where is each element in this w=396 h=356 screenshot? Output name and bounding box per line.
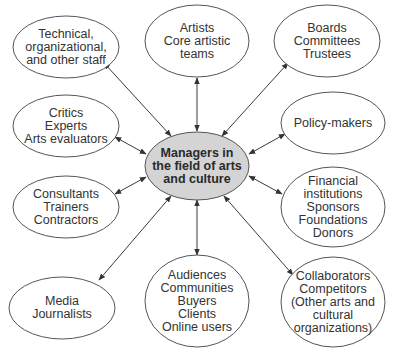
double-arrow-policy bbox=[249, 134, 285, 154]
label-line: and other staff bbox=[25, 54, 106, 67]
label-line: teams bbox=[164, 48, 231, 61]
node-label-staff: Technical,organizational,and other staff bbox=[25, 28, 106, 67]
label-line: Arts evaluators bbox=[24, 133, 107, 146]
double-arrow-consultants bbox=[115, 177, 146, 194]
label-line: Online users bbox=[161, 321, 234, 334]
label-line: Contractors bbox=[33, 214, 99, 227]
node-label-artists: ArtistsCore artisticteams bbox=[164, 22, 231, 61]
label-line: Trustees bbox=[294, 48, 361, 61]
node-label-critics: CriticsExpertsArts evaluators bbox=[24, 107, 107, 146]
node-label-boards: BoardsCommitteesTrustees bbox=[294, 22, 361, 61]
double-arrow-critics bbox=[115, 137, 146, 154]
label-line: Policy-makers bbox=[294, 117, 373, 130]
label-line: Donors bbox=[299, 227, 368, 240]
node-label-policy: Policy-makers bbox=[294, 117, 373, 130]
node-label-financial: FinancialinstitutionsSponsorsFoundations… bbox=[299, 175, 368, 240]
node-label-media: MediaJournalists bbox=[32, 295, 92, 321]
label-line: Journalists bbox=[32, 308, 92, 321]
node-label-audiences: AudiencesCommunitiesBuyersClientsOnline … bbox=[161, 269, 234, 334]
label-line: and culture bbox=[152, 173, 242, 186]
double-arrow-boards bbox=[222, 63, 288, 136]
label-line: organizations) bbox=[291, 322, 375, 335]
double-arrow-financial bbox=[249, 176, 282, 194]
node-label-consultants: ConsultantsTrainersContractors bbox=[33, 188, 99, 227]
center-label-managers: Managers inthe field of artsand culture bbox=[152, 147, 242, 186]
node-label-collaborators: CollaboratorsCompetitors(Other arts andc… bbox=[291, 270, 375, 335]
